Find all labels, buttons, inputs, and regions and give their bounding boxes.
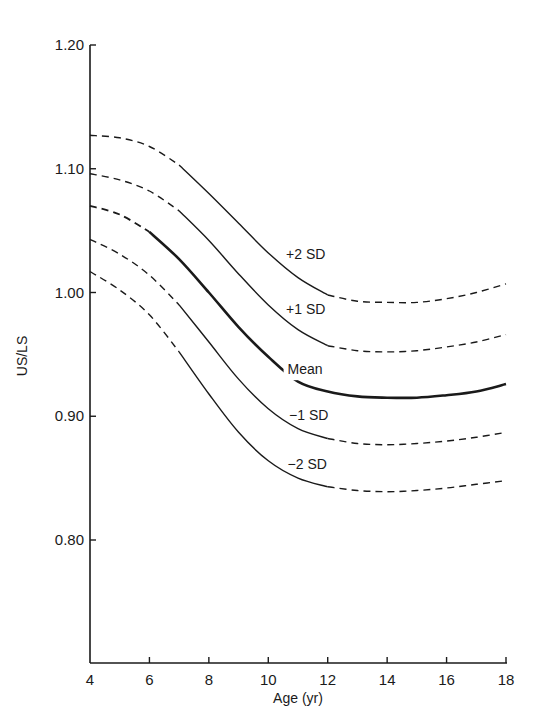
series-1-sd — [90, 174, 506, 352]
y-tick-label: 1.20 — [55, 36, 84, 53]
curve-label: +2 SD — [286, 246, 325, 262]
solid-segment — [179, 165, 328, 295]
curve-label: −2 SD — [288, 456, 327, 472]
dashed-segment — [90, 206, 149, 232]
y-tick-label: 0.90 — [55, 407, 84, 424]
dashed-segment — [328, 481, 506, 492]
solid-segment — [179, 211, 328, 346]
y-tick-label: 0.80 — [55, 531, 84, 548]
y-tick-label: 1.10 — [55, 160, 84, 177]
x-tick-label: 4 — [86, 671, 94, 688]
x-tick-label: 8 — [205, 671, 213, 688]
x-ticks: 4681012141618 — [86, 657, 515, 688]
x-tick-label: 14 — [379, 671, 396, 688]
dashed-segment — [90, 135, 179, 165]
x-axis-title: Age (yr) — [273, 690, 323, 706]
y-axis-title: US/LS — [14, 336, 30, 376]
y-tick-label: 1.00 — [55, 284, 84, 301]
dashed-segment — [90, 272, 179, 352]
x-tick-label: 16 — [438, 671, 455, 688]
x-tick-label: 18 — [498, 671, 515, 688]
dashed-segment — [328, 284, 506, 303]
dashed-segment — [90, 239, 179, 305]
curve-label: Mean — [288, 361, 323, 377]
curve-label: +1 SD — [286, 301, 325, 317]
us-ls-chart: 0.800.901.001.101.20 4681012141618 US/LS… — [0, 0, 535, 727]
dashed-segment — [328, 335, 506, 352]
curve-label: −1 SD — [289, 407, 328, 423]
x-tick-label: 6 — [145, 671, 153, 688]
dashed-segment — [328, 432, 506, 444]
dashed-segment — [90, 174, 179, 211]
curve-labels: +2 SD+1 SDMean−1 SD−2 SD — [284, 246, 332, 472]
axes: 0.800.901.001.101.20 4681012141618 US/LS… — [14, 36, 514, 706]
x-tick-label: 10 — [260, 671, 277, 688]
x-tick-label: 12 — [319, 671, 336, 688]
